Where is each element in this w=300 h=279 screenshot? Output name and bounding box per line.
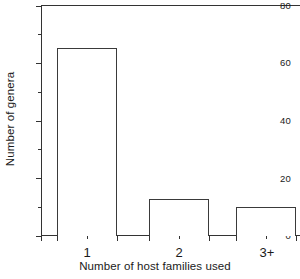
x-tick-major [117, 236, 118, 241]
x-tick-major [209, 236, 210, 241]
x-tick-minor [87, 236, 88, 239]
y-tick-major [36, 6, 41, 7]
x-tick-label-2: 2 [159, 246, 199, 260]
x-tick-minor [266, 236, 267, 239]
x-tick-major [149, 236, 150, 241]
bar-category-2 [149, 199, 209, 237]
x-tick-major [296, 236, 297, 241]
y-axis-title: Number of genera [2, 0, 18, 239]
y-tick-label-80: 80 [257, 1, 291, 11]
y-tick-minor [38, 149, 41, 150]
x-tick-major [41, 236, 42, 241]
y-tick-minor [38, 34, 41, 35]
bar-category-1 [57, 48, 117, 236]
bar-category-3plus [236, 207, 296, 236]
left-spine [41, 5, 42, 236]
x-tick-major [236, 236, 237, 241]
y-tick-label-20: 20 [257, 174, 291, 184]
x-tick-major [57, 236, 58, 241]
bar-chart-figure: Number of genera Number of host families… [0, 0, 300, 279]
x-tick-minor [179, 236, 180, 239]
plot-area: 0 20 40 60 80 1 2 3+ [41, 5, 300, 236]
y-tick-label-60: 60 [257, 58, 291, 68]
x-axis-title: Number of host families used [40, 260, 270, 272]
x-tick-label-1: 1 [67, 246, 107, 260]
y-tick-major [36, 63, 41, 64]
y-tick-minor [38, 92, 41, 93]
x-tick-label-3plus: 3+ [247, 246, 287, 260]
y-tick-major [36, 178, 41, 179]
y-tick-label-40: 40 [257, 116, 291, 126]
y-tick-minor [38, 207, 41, 208]
y-tick-major [36, 121, 41, 122]
